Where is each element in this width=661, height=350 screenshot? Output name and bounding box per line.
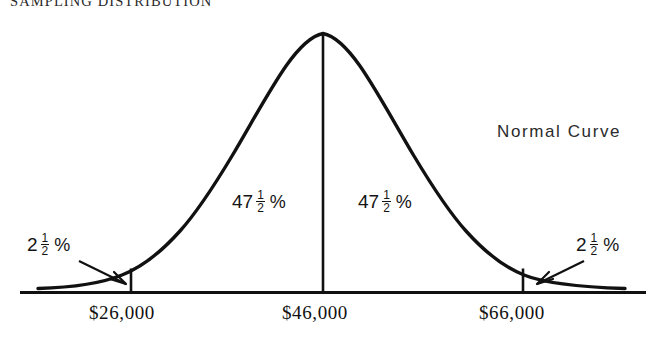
axis-tick-label-66000: $66,000 (479, 303, 545, 322)
fraction-numerator: 1 (256, 189, 265, 201)
fraction-one-half: 1 2 (256, 189, 265, 214)
fraction-denominator: 2 (590, 244, 599, 257)
right-tail-arrow-icon (537, 261, 584, 284)
percent-whole: 47 (358, 192, 379, 211)
fraction-denominator: 2 (256, 201, 265, 214)
fraction-numerator: 1 (382, 189, 391, 201)
axis-tick-label-46000: $46,000 (282, 303, 348, 322)
percent-label-left-tail: 2 1 2 % (27, 232, 70, 257)
percent-sign: % (396, 193, 412, 211)
fraction-one-half: 1 2 (41, 232, 50, 257)
fraction-denominator: 2 (382, 201, 391, 214)
normal-curve-path (38, 34, 625, 289)
percent-sign: % (603, 236, 619, 254)
fraction-one-half: 1 2 (590, 232, 599, 257)
percent-sign: % (270, 193, 286, 211)
percent-whole: 47 (232, 192, 253, 211)
fraction-numerator: 1 (590, 232, 599, 244)
fraction-denominator: 2 (41, 244, 50, 257)
percent-label-left-middle: 47 1 2 % (232, 189, 286, 214)
fraction-one-half: 1 2 (382, 189, 391, 214)
normal-curve-annotation: Normal Curve (497, 123, 621, 140)
sampling-distribution-figure: SAMPLING DISTRIBUTION Normal Curve 2 1 2… (0, 0, 661, 350)
percent-whole: 2 (27, 235, 38, 254)
percent-label-right-middle: 47 1 2 % (358, 189, 412, 214)
axis-tick-label-26000: $26,000 (89, 303, 155, 322)
percent-whole: 2 (576, 235, 587, 254)
percent-sign: % (54, 236, 70, 254)
page-title: SAMPLING DISTRIBUTION (10, 0, 212, 9)
fraction-numerator: 1 (41, 232, 50, 244)
normal-curve-drawing (0, 0, 661, 350)
percent-label-right-tail: 2 1 2 % (576, 232, 619, 257)
